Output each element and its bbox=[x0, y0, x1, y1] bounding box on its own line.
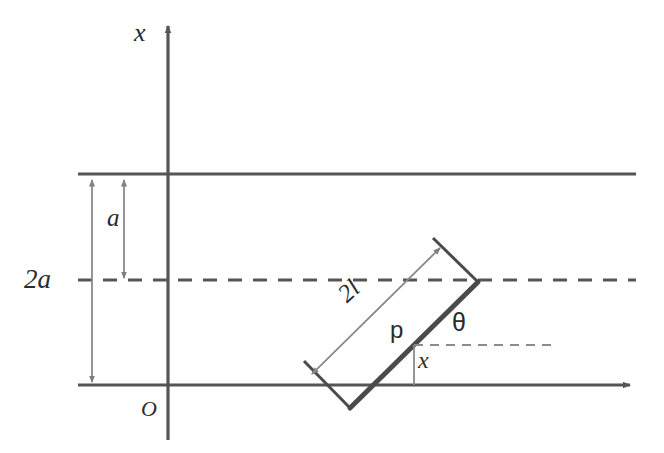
geometry-diagram bbox=[0, 0, 664, 453]
offset-x-label: x bbox=[418, 348, 429, 372]
axis-x-label: x bbox=[134, 20, 146, 46]
origin-label: O bbox=[141, 398, 157, 420]
dimension-a-label: a bbox=[107, 205, 120, 230]
dimension-2a-label: 2a bbox=[24, 266, 51, 293]
rod-end-tick-upper bbox=[433, 238, 478, 282]
point-p-label: p bbox=[390, 318, 403, 342]
diagram-canvas: x 2a a O 2l p θ x bbox=[0, 0, 664, 453]
theta-label: θ bbox=[452, 310, 466, 335]
